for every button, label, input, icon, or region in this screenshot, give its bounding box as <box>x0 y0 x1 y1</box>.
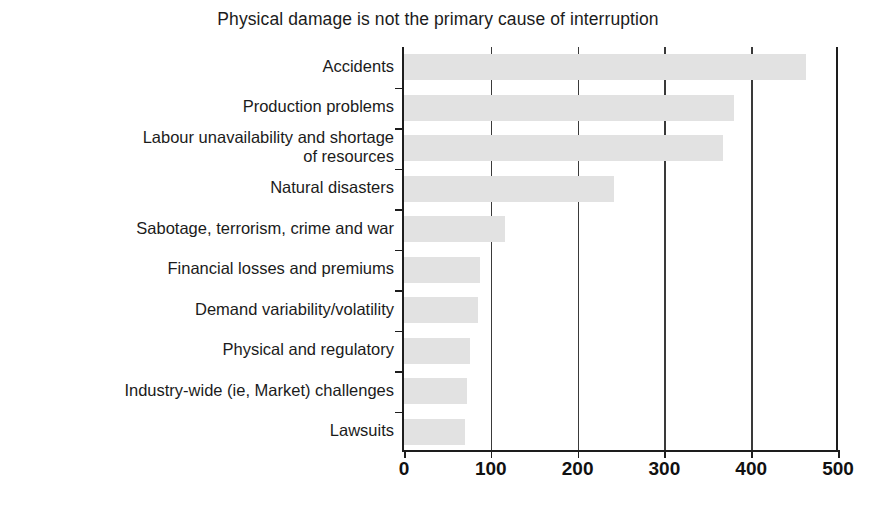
category-tick <box>395 128 402 130</box>
bar <box>404 338 470 364</box>
axis-right-spine <box>836 47 838 452</box>
value-tick <box>751 450 753 458</box>
bar <box>404 176 614 202</box>
category-tick <box>395 412 402 414</box>
value-tick-label: 400 <box>735 458 767 480</box>
category-tick <box>395 371 402 373</box>
category-tick <box>395 88 402 90</box>
value-tick <box>664 450 666 458</box>
value-tick-label: 300 <box>649 458 681 480</box>
bar <box>404 54 806 80</box>
value-tick <box>578 450 580 458</box>
value-tick <box>491 450 493 458</box>
bar <box>404 216 505 242</box>
category-label: Industry-wide (ie, Market) challenges <box>0 381 394 400</box>
bar <box>404 95 734 121</box>
category-label: Labour unavailability and shortage of re… <box>0 128 394 166</box>
bar-chart: Physical damage is not the primary cause… <box>0 0 876 516</box>
bar <box>404 419 465 445</box>
bar <box>404 135 723 161</box>
category-tick <box>395 169 402 171</box>
axis-bottom-line <box>402 450 838 452</box>
category-tick <box>395 331 402 333</box>
category-label: Demand variability/volatility <box>0 300 394 319</box>
bar <box>404 297 478 323</box>
bar <box>404 257 480 283</box>
gridline <box>751 47 753 452</box>
bar <box>404 378 467 404</box>
value-tick <box>404 450 406 458</box>
category-label: Natural disasters <box>0 178 394 197</box>
value-tick-label: 200 <box>562 458 594 480</box>
value-tick-label: 100 <box>475 458 507 480</box>
category-tick <box>395 290 402 292</box>
category-label: Production problems <box>0 97 394 116</box>
category-label: Lawsuits <box>0 421 394 440</box>
category-label: Sabotage, terrorism, crime and war <box>0 219 394 238</box>
category-label: Financial losses and premiums <box>0 259 394 278</box>
value-tick-label: 500 <box>822 458 854 480</box>
category-label: Accidents <box>0 57 394 76</box>
category-tick <box>395 250 402 252</box>
category-label: Physical and regulatory <box>0 340 394 359</box>
plot-area <box>402 47 838 452</box>
value-tick <box>838 450 840 458</box>
value-tick-label: 0 <box>399 458 410 480</box>
category-tick <box>395 209 402 211</box>
